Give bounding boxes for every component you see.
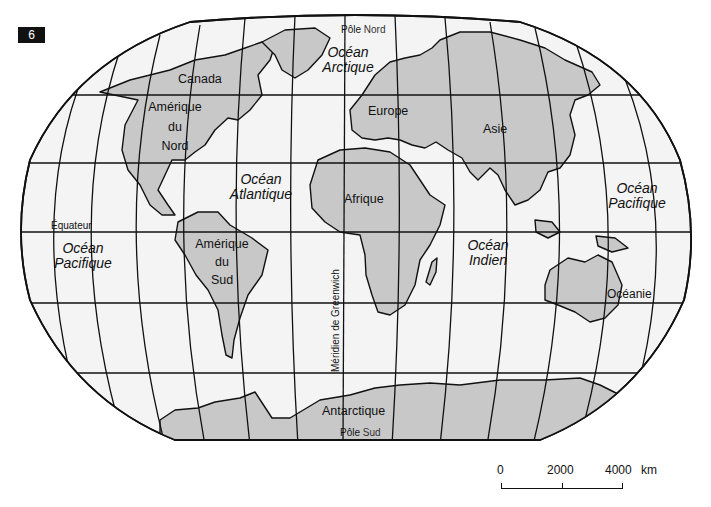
south-pole-name: Sud: [363, 427, 381, 438]
label-line: Océan: [458, 238, 518, 253]
label-asia: Asie: [483, 123, 507, 137]
label-europe: Europe: [368, 105, 408, 119]
scale-unit: km: [641, 463, 657, 477]
scale-tick-0: 0: [497, 463, 504, 477]
label-line: Océan: [222, 172, 300, 187]
label-line: Atlantique: [222, 187, 300, 202]
label-line: Océan: [602, 181, 672, 196]
greenwich-meridian-label: Méridien de Greenwich: [330, 269, 341, 372]
label-indian-ocean: Océan Indien: [458, 238, 518, 269]
north-pole-prefix: Pôle: [341, 24, 361, 35]
south-pole-prefix: Pôle: [340, 427, 360, 438]
label-line: Océan: [48, 241, 118, 256]
scale-tick-mark: [501, 483, 502, 489]
label-arctic-ocean: Océan Arctique: [318, 45, 378, 76]
label-line: du: [192, 256, 252, 270]
scale-tick-4000: 4000: [605, 463, 632, 477]
north-pole-label: Pôle Nord: [341, 24, 385, 35]
label-pacific-ocean-east: Océan Pacifique: [602, 181, 672, 212]
label-line: Arctique: [318, 60, 378, 75]
label-line: du: [145, 121, 205, 135]
label-line: Nord: [145, 140, 205, 154]
label-line: Amérique: [192, 238, 252, 252]
equator-label: Équateur: [51, 220, 92, 231]
label-north-america: Amérique du Nord: [145, 101, 205, 153]
scale-tick-2000: 2000: [547, 463, 574, 477]
label-canada: Canada: [178, 73, 222, 87]
figure-number-badge: 6: [18, 27, 45, 43]
label-africa: Afrique: [344, 193, 384, 207]
label-oceania: Océanie: [607, 288, 652, 301]
label-south-america: Amérique du Sud: [192, 238, 252, 287]
label-pacific-ocean-west: Océan Pacifique: [48, 241, 118, 272]
label-line: Sud: [192, 274, 252, 288]
scale-tick-mark: [562, 483, 563, 489]
label-line: Pacifique: [48, 256, 118, 271]
north-pole-name: Nord: [364, 24, 386, 35]
label-line: Pacifique: [602, 196, 672, 211]
south-pole-label: Pôle Sud: [340, 427, 381, 438]
label-line: Amérique: [145, 101, 205, 115]
label-line: Océan: [318, 45, 378, 60]
label-atlantic-ocean: Océan Atlantique: [222, 172, 300, 203]
scale-bar: 0 2000 4000 km: [495, 463, 665, 493]
scale-tick-mark: [622, 483, 623, 489]
label-antarctica: Antarctique: [322, 405, 385, 419]
label-line: Indien: [458, 253, 518, 268]
